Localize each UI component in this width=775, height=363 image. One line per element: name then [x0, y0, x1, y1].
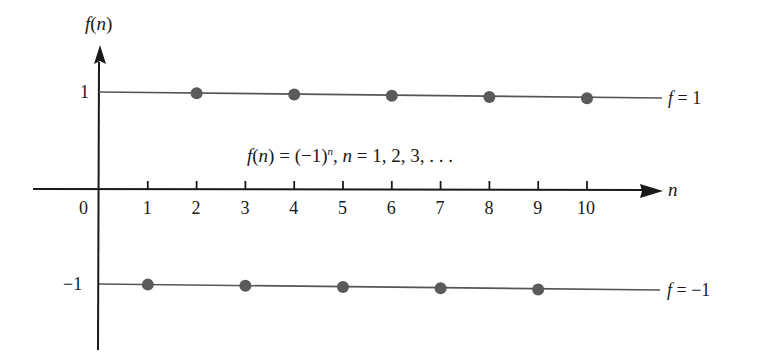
data-point [386, 90, 398, 102]
x-tick-label: 6 [387, 199, 396, 217]
data-point [435, 282, 447, 294]
y-tick-label-1: 1 [80, 83, 89, 101]
ref-label-f-neg1: f = −1 [667, 281, 710, 299]
chart-canvas [0, 0, 775, 363]
data-points [142, 87, 593, 295]
data-point [483, 91, 495, 103]
x-tick-label: 7 [436, 199, 445, 217]
x-axis-label: n [668, 180, 678, 199]
ref-label-f-1: f = 1 [668, 89, 701, 107]
x-axis-arrow-icon [640, 184, 663, 198]
x-tick-label: 1 [143, 199, 152, 217]
y-axis-label-text: f(n) [85, 13, 112, 34]
x-tick-label: 5 [338, 199, 347, 217]
data-point [191, 87, 203, 99]
x-tick-label: 9 [533, 199, 542, 217]
data-point [288, 88, 300, 100]
ref-line-f-1 [99, 92, 662, 98]
data-point [532, 284, 544, 296]
formula-rest: , n = 1, 2, 3, . . . [333, 145, 453, 166]
y-axis [98, 62, 99, 350]
x-tick-label: 2 [192, 199, 201, 217]
x-tick-label: 3 [240, 199, 249, 217]
data-point [581, 92, 593, 104]
y-axis-label: f(n) [85, 14, 112, 33]
ref-line-f-neg1 [99, 284, 660, 290]
data-point [337, 281, 349, 293]
data-point [142, 279, 154, 291]
x-axis [33, 189, 645, 190]
data-point [239, 280, 251, 292]
x-tick-label: 10 [577, 199, 595, 217]
y-axis-arrow-icon [94, 45, 106, 64]
x-tick-label: 4 [289, 199, 298, 217]
ref-label-f-1-text: = 1 [673, 88, 701, 108]
ref-label-f-neg1-text: = −1 [672, 280, 710, 300]
y-tick-label-neg1: −1 [63, 275, 82, 293]
formula-main: f(n) = (−1) [247, 145, 328, 166]
origin-label: 0 [79, 199, 88, 217]
x-tick-label: 8 [484, 199, 493, 217]
formula-annotation: f(n) = (−1)n, n = 1, 2, 3, . . . [247, 146, 453, 165]
